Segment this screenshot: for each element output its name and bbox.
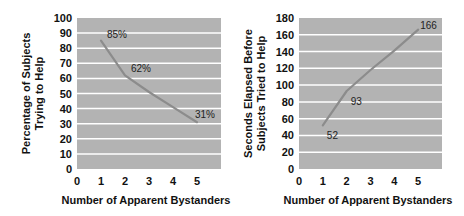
- plot-area: [299, 18, 442, 169]
- y-tick-label: 40: [60, 103, 72, 115]
- y-tick-label: 60: [282, 113, 294, 125]
- y-tick-label: 10: [60, 148, 72, 160]
- data-label: 85%: [107, 29, 127, 40]
- y-tick-label: 20: [282, 146, 294, 158]
- x-tick-label: 5: [415, 175, 421, 187]
- x-tick-label: 3: [146, 175, 152, 187]
- chart-svg: 0102030405060708090100012345Number of Ap…: [0, 0, 232, 216]
- y-tick-label: 120: [276, 62, 294, 74]
- data-label: 31%: [195, 109, 215, 120]
- y-tick-label: 60: [60, 72, 72, 84]
- x-tick-label: 4: [391, 175, 398, 187]
- y-tick-label: 140: [276, 46, 294, 58]
- x-tick-label: 0: [296, 175, 302, 187]
- data-label: 166: [420, 20, 437, 31]
- data-label: 93: [351, 96, 363, 107]
- y-axis-title: Seconds Elapsed Before: [242, 29, 254, 158]
- y-tick-label: 180: [276, 12, 294, 24]
- y-tick-label: 160: [276, 29, 294, 41]
- y-axis-title: Percentage of Subjects: [20, 33, 32, 155]
- chart-svg: 020406080100120140160180012345Number of …: [232, 0, 464, 216]
- percentage-helping-chart: 0102030405060708090100012345Number of Ap…: [0, 0, 232, 216]
- x-tick-label: 1: [320, 175, 326, 187]
- x-axis-title: Number of Apparent Bystanders: [62, 194, 231, 206]
- x-tick-label: 2: [344, 175, 350, 187]
- y-tick-label: 20: [60, 133, 72, 145]
- y-tick-label: 70: [60, 57, 72, 69]
- seconds-elapsed-chart: 020406080100120140160180012345Number of …: [232, 0, 464, 216]
- x-tick-label: 4: [170, 175, 177, 187]
- data-label: 62%: [131, 63, 151, 74]
- y-tick-label: 90: [60, 27, 72, 39]
- x-tick-label: 0: [74, 175, 80, 187]
- y-tick-label: 80: [60, 42, 72, 54]
- y-axis-title: Trying to Help: [33, 57, 45, 131]
- y-tick-label: 80: [282, 96, 294, 108]
- y-tick-label: 30: [60, 118, 72, 130]
- y-tick-label: 100: [54, 12, 72, 24]
- y-tick-label: 50: [60, 88, 72, 100]
- y-axis-title: Subjects Tried to Help: [255, 35, 267, 151]
- x-tick-label: 3: [367, 175, 373, 187]
- y-tick-label: 100: [276, 79, 294, 91]
- x-axis-title: Number of Apparent Bystanders: [284, 194, 453, 206]
- y-tick-label: 40: [282, 129, 294, 141]
- data-label: 52: [327, 130, 339, 141]
- x-tick-label: 2: [122, 175, 128, 187]
- y-tick-label: 0: [288, 163, 294, 175]
- x-tick-label: 1: [98, 175, 104, 187]
- x-tick-label: 5: [194, 175, 200, 187]
- y-tick-label: 0: [66, 163, 72, 175]
